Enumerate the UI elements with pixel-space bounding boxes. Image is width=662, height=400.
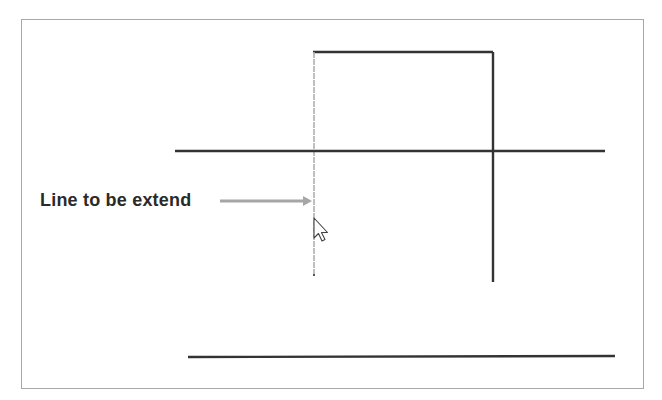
bottom-boundary-line[interactable]	[188, 356, 615, 357]
selection-grip-icon	[313, 274, 315, 276]
annotation-arrow-icon	[220, 196, 312, 206]
annotation-label: Line to be extend	[40, 190, 191, 211]
mouse-cursor-icon	[314, 218, 328, 241]
